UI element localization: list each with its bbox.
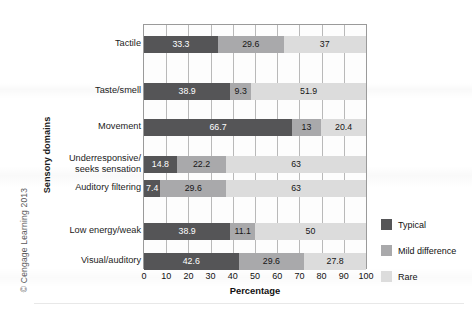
bar-row: 38.911.150 (144, 223, 366, 240)
legend-label: Rare (398, 272, 418, 282)
bar-row: 38.99.351.9 (144, 83, 366, 100)
bar-segment: 22.2 (177, 156, 226, 173)
bar-segment: 13 (292, 119, 321, 136)
x-tick-label: 90 (339, 271, 349, 281)
legend-item: Rare (381, 268, 456, 285)
bar-segment: 38.9 (144, 223, 230, 240)
bar-segment: 63 (226, 180, 366, 197)
bar-segment: 66.7 (144, 119, 292, 136)
legend-item: Typical (381, 216, 456, 233)
bar-segment: 42.6 (144, 253, 239, 270)
legend-item: Mild difference (381, 242, 456, 259)
bar-row: 66.71320.4 (144, 119, 366, 136)
bar-row: 42.629.627.8 (144, 253, 366, 270)
bar-row: 14.822.263 (144, 156, 366, 173)
bar-segment: 63 (226, 156, 366, 173)
x-tick-label: 50 (250, 271, 260, 281)
category-label: Auditory filtering (24, 182, 141, 193)
category-label: Tactile (24, 38, 141, 49)
x-tick-label: 60 (272, 271, 282, 281)
bar-segment: 14.8 (144, 156, 177, 173)
bar-segment: 33.3 (144, 36, 218, 53)
category-label: Taste/smell (24, 85, 141, 96)
category-label: Low energy/weak (24, 225, 141, 236)
bar-segment: 29.6 (239, 253, 305, 270)
bar-row: 33.329.637 (144, 36, 366, 53)
plot-area: 33.329.63738.99.351.966.71320.414.822.26… (143, 24, 367, 269)
x-tick-label: 10 (161, 271, 171, 281)
x-tick-label: 30 (206, 271, 216, 281)
bar-segment: 51.9 (251, 83, 366, 100)
bar-segment: 29.6 (160, 180, 226, 197)
x-axis-title: Percentage (143, 285, 367, 296)
bar-segment: 38.9 (144, 83, 230, 100)
x-tick-label: 100 (358, 271, 373, 281)
x-axis-tick-labels: 0102030405060708090100 (143, 271, 367, 283)
legend: TypicalMild differenceRare (381, 216, 456, 294)
legend-swatch (381, 245, 392, 256)
bar-row: 7.429.663 (144, 180, 366, 197)
legend-swatch (381, 271, 392, 282)
bar-segment: 7.4 (144, 180, 160, 197)
bar-segment: 37 (284, 36, 366, 53)
bar-segment: 50 (255, 223, 366, 240)
x-tick-label: 70 (294, 271, 304, 281)
category-label: Movement (24, 121, 141, 132)
legend-label: Mild difference (398, 246, 456, 256)
bar-segment: 20.4 (321, 119, 366, 136)
bar-segment: 29.6 (218, 36, 284, 53)
legend-swatch (381, 219, 392, 230)
bar-segment: 9.3 (230, 83, 251, 100)
category-label-column: TactileTaste/smellMovementUnderresponsiv… (24, 24, 141, 269)
category-label: Underresponsive/seeks sensation (24, 153, 141, 175)
x-tick-label: 0 (141, 271, 146, 281)
page-bottom-rule (34, 303, 464, 304)
bar-segment: 27.8 (304, 253, 366, 270)
legend-label: Typical (398, 220, 426, 230)
x-tick-label: 40 (228, 271, 238, 281)
category-label: Visual/auditory (24, 255, 141, 266)
bar-segment: 11.1 (230, 223, 255, 240)
x-tick-label: 20 (183, 271, 193, 281)
x-tick-label: 80 (317, 271, 327, 281)
